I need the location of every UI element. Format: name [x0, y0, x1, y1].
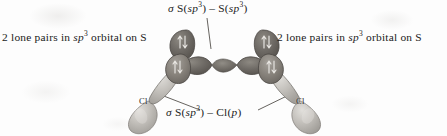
- sigma-ss-text-a: S(: [174, 2, 188, 14]
- sigma-scl-text-c: ): [237, 106, 241, 118]
- lone-right-text-b: orbital on S: [363, 31, 422, 43]
- leader-line-sigma-ss: [207, 18, 211, 49]
- sigma-ss-overlap-region: [212, 59, 237, 72]
- sulfur-right-lone-pair-lobe-lower: [258, 54, 283, 84]
- sigma-bond-S-S: [178, 57, 271, 75]
- lone-right-text-a: 2 lone pairs in: [277, 31, 348, 43]
- lone-left-sp: sp: [73, 31, 84, 43]
- lone-left-text-b: orbital on S: [88, 31, 147, 43]
- orbital-diagram-figure: σ S(sp3) – S(sp3) 2 lone pairs in sp3 or…: [0, 0, 447, 136]
- sigma-scl-text-b: ) – Cl(: [200, 106, 231, 118]
- sigma-scl-sp: sp: [186, 106, 197, 118]
- sigma-ss-text-c: ): [243, 2, 247, 14]
- sigma-scl-text-a: S(: [172, 106, 186, 118]
- label-lone-pairs-right: 2 lone pairs in sp3 orbital on S: [277, 31, 422, 44]
- sulfur-left-lone-pair-lobe-lower: [166, 54, 191, 84]
- label-lone-pairs-left: 2 lone pairs in sp3 orbital on S: [2, 31, 147, 44]
- label-sigma-s-s-bond: σ S(sp3) – S(sp3): [168, 2, 247, 15]
- sigma-ss-sp-2: sp: [229, 2, 240, 14]
- atom-label-chlorine-left: Cl: [139, 96, 147, 106]
- lone-left-text-a: 2 lone pairs in: [2, 31, 73, 43]
- atom-label-chlorine-right: Cl: [296, 96, 304, 106]
- lone-right-sp: sp: [348, 31, 359, 43]
- sigma-ss-text-b: ) – S(: [202, 2, 229, 14]
- sigma-ss-sp-1: sp: [188, 2, 199, 14]
- label-sigma-s-cl-bond: σ S(sp3) – Cl(p): [166, 106, 241, 119]
